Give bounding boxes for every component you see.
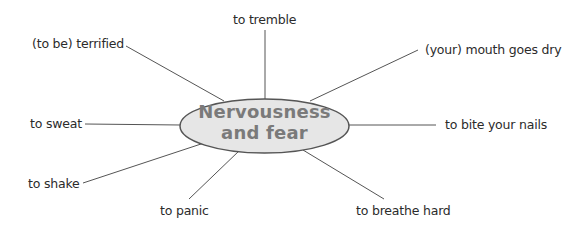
branch-label-to-sweat: to sweat [30,116,82,131]
center-node-title: Nervousness and fear [180,101,349,143]
connector-breathe-hard [303,150,384,199]
branch-label-mouth-goes-dry: (your) mouth goes dry [425,42,561,57]
center-title-line1: Nervousness [180,101,349,122]
connector-mouth-goes-dry [310,50,418,101]
branch-label-terrified: (to be) terrified [32,36,124,51]
branch-label-to-tremble: to tremble [233,12,296,27]
connector-to-panic [189,150,240,199]
connector-to-sweat [85,124,181,125]
branch-label-to-shake: to shake [28,176,80,191]
branch-label-to-panic: to panic [160,203,209,218]
branch-label-bite-nails: to bite your nails [445,117,547,132]
connector-to-shake [83,143,204,183]
center-title-line2: and fear [180,122,349,143]
branch-label-breathe-hard: to breathe hard [356,203,451,218]
connector-terrified [126,46,224,101]
